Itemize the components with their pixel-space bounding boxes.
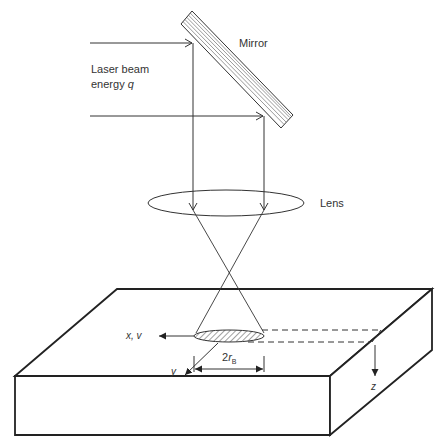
laser-energy-var: q	[128, 78, 134, 90]
lens	[148, 190, 304, 216]
z-axis-label: z	[371, 379, 376, 394]
x-axis-label: x, v	[126, 328, 142, 343]
mirror	[181, 11, 293, 128]
laser-energy-text: energy	[91, 78, 128, 90]
laser-beam-label-line1: Laser beam	[91, 62, 149, 77]
spot-diameter-label: 2rB	[222, 350, 236, 369]
y-axis-label: y	[171, 364, 176, 379]
spot-diameter-sub: B	[232, 358, 237, 365]
laser-beam-label-line2: energy q	[91, 77, 149, 92]
laser-beam-label: Laser beam energy q	[91, 62, 149, 92]
laser-spot	[194, 330, 264, 342]
mirror-label: Mirror	[239, 36, 268, 51]
lens-label: Lens	[320, 196, 344, 211]
laser-processing-diagram	[0, 0, 444, 444]
